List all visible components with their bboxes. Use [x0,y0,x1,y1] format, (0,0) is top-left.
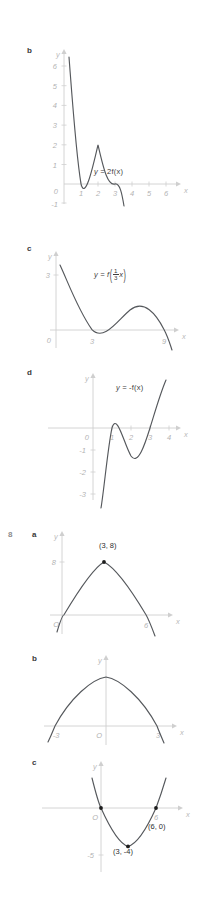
ticks-8a: 8 O 6 [52,558,149,630]
ticks-8c: -5 O 6 [87,813,159,860]
panel-d: d y = -f(x) 1 2 3 4 0 -1 -2 -3 [0,360,219,510]
svg-text:1: 1 [79,189,83,198]
svg-text:4: 4 [167,433,171,442]
axes-8c [42,761,183,872]
svg-text:5: 5 [53,82,58,91]
y-axis-name-8c: y [92,762,98,771]
panel-b: b y = 2f(x) 1 2 3 4 5 6 [0,36,219,226]
x-axis-name-d: x [183,430,188,439]
axes-c [50,251,179,348]
x-tick-3-c: 3 [90,337,95,346]
x-tick-3-8b: 3 [156,731,161,740]
curve-c [60,265,172,350]
root-point-six-8c [154,806,158,810]
svg-text:2: 2 [52,141,58,150]
x-axis-name-8c: x [185,810,190,819]
x-axis-name-c: x [181,332,186,341]
svg-text:3: 3 [148,433,153,442]
root-point-origin-8c [99,806,103,810]
graph-8b: -3 3 O x y [0,646,219,756]
origin-label-c: 0 [47,336,52,345]
svg-text:0: 0 [54,187,59,196]
svg-text:-2: -2 [79,468,86,477]
x-tick-9-c: 9 [162,337,167,346]
y-tick-neg5-8c: -5 [87,851,94,860]
svg-text:2: 2 [128,433,134,442]
y-axis-name-c: y [47,252,53,261]
svg-text:-1: -1 [51,200,58,209]
curve-8a [57,562,155,636]
graph-8c: -5 O 6 x y [0,752,219,916]
y-axis-name-b: y [55,50,61,59]
axes-8a [50,531,173,634]
svg-text:1: 1 [53,161,57,170]
x-tick-neg3-8b: -3 [53,731,60,740]
graph-8a: 8 O 6 x y [0,522,219,644]
panel-8b: b -3 3 O x y [0,646,219,756]
ticks-c: 3 0 3 9 [46,271,167,346]
y-tick-8: 8 [52,558,57,567]
svg-text:4: 4 [53,101,57,110]
y-axis-name-d: y [84,374,90,383]
svg-text:2: 2 [95,189,101,198]
origin-label-8c: O [92,813,98,822]
svg-text:6: 6 [53,62,58,71]
svg-text:3: 3 [53,121,58,130]
y-axis-name-8b: y [97,656,103,665]
x-axis-name-8b: x [179,728,184,737]
graph-d: 1 2 3 4 0 -1 -2 -3 x y [0,360,219,510]
svg-text:5: 5 [147,189,152,198]
graph-b: 1 2 3 4 5 6 6 5 4 3 2 1 0 -1 x y [0,36,219,226]
svg-text:-1: -1 [79,446,86,455]
y-axis-name-8a: y [53,532,59,541]
axes-b [61,49,181,204]
svg-text:3: 3 [113,189,118,198]
x-axis-name-b: x [183,186,188,195]
graph-c: 3 0 3 9 x y [0,236,219,354]
x-axis-name-8a: x [175,617,180,626]
panel-c: c y = f(13x) 3 0 3 9 x y [0,236,219,354]
panel-8c: c (6, 0) (3, -4) -5 O 6 x y [0,752,219,916]
x-tick-6-8c: 6 [154,813,159,822]
origin-label-8b: O [96,731,102,740]
vertex-point-8c [126,845,130,849]
panel-8a: 8 a (3, 8) 8 O 6 x y [0,522,219,644]
y-tick-3-c: 3 [46,271,51,280]
vertex-point-8a [102,560,106,564]
ticks-8b: -3 3 O [53,731,161,740]
origin-label-d: 0 [85,433,90,442]
svg-text:4: 4 [130,189,134,198]
curve-d [101,380,166,508]
svg-text:6: 6 [164,189,169,198]
svg-text:-3: -3 [79,490,86,499]
x-tick-6-8a: 6 [144,621,149,630]
